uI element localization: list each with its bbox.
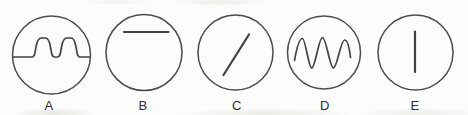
square-wave-icon [14, 38, 91, 57]
option-a-figure [13, 16, 91, 94]
option-label-b: B [123, 99, 163, 112]
sine-wave-icon [295, 38, 351, 69]
waveform-options-figure: A B C D E [0, 0, 468, 115]
diagonal-line-icon [224, 35, 250, 76]
option-label-d: D [305, 99, 345, 112]
option-c-figure [198, 15, 273, 90]
option-b-figure [106, 15, 182, 91]
option-label-a: A [29, 99, 69, 112]
circle-outline-b [106, 15, 182, 91]
option-label-c: C [217, 99, 257, 112]
option-d-figure [288, 16, 361, 89]
circle-outline-c [198, 15, 273, 90]
option-e-figure [378, 15, 453, 90]
option-label-e: E [395, 99, 435, 112]
